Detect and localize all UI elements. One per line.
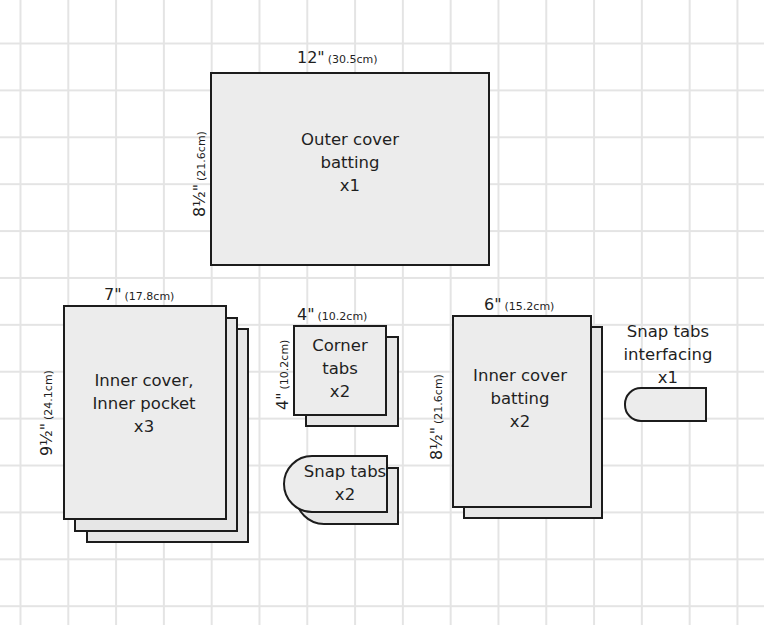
inner-cover-batting-height-dimension: 8½"(21.6cm) — [428, 374, 448, 460]
dimension-metric: (24.1cm) — [42, 370, 55, 420]
dimension-imperial: 6" — [484, 295, 502, 314]
inner-cover-height-dimension: 9½"(24.1cm) — [38, 370, 58, 456]
label-line: tabs — [312, 357, 368, 380]
label-line: Inner cover — [473, 364, 567, 387]
quantity-label: x2 — [304, 483, 386, 506]
label-line: batting — [301, 151, 399, 174]
inner-cover-inner-pocket-label: Inner cover, Inner pocket x3 — [92, 369, 195, 438]
outer-cover-width-dimension: 12"(30.5cm) — [297, 49, 378, 69]
dimension-metric: (21.6cm) — [195, 131, 208, 181]
quantity-label: x3 — [92, 415, 195, 438]
snap-tabs-interfacing-piece — [624, 387, 707, 422]
inner-cover-width-dimension: 7"(17.8cm) — [104, 286, 174, 306]
dimension-imperial: 7" — [104, 285, 122, 304]
outer-cover-height-dimension: 8½"(21.6cm) — [191, 131, 211, 217]
label-line: Snap tabs — [304, 460, 386, 483]
dimension-imperial: 12" — [297, 48, 325, 67]
label-line: Snap tabs — [624, 320, 713, 343]
inner-cover-batting-label: Inner cover batting x2 — [473, 364, 567, 433]
quantity-label: x1 — [624, 366, 713, 389]
label-line: batting — [473, 387, 567, 410]
dimension-imperial: 8½" — [427, 427, 446, 460]
corner-tabs-label: Corner tabs x2 — [312, 334, 368, 403]
dimension-metric: (17.8cm) — [125, 290, 175, 303]
dimension-imperial: 4" — [273, 392, 292, 410]
dimension-imperial: 9½" — [37, 423, 56, 456]
snap-tabs-interfacing-label: Snap tabs interfacing x1 — [624, 320, 713, 389]
dimension-metric: (15.2cm) — [505, 300, 555, 313]
label-line: interfacing — [624, 343, 713, 366]
dimension-metric: (21.6cm) — [432, 374, 445, 424]
inner-cover-batting-width-dimension: 6"(15.2cm) — [484, 296, 554, 316]
corner-tabs-height-dimension: 4"(10.2cm) — [274, 340, 294, 410]
dimension-metric: (10.2cm) — [318, 310, 368, 323]
outer-cover-batting-label: Outer cover batting x1 — [301, 128, 399, 197]
dimension-imperial: 8½" — [190, 184, 209, 217]
corner-tabs-width-dimension: 4"(10.2cm) — [297, 306, 367, 326]
label-line: Inner cover, — [92, 369, 195, 392]
quantity-label: x2 — [473, 410, 567, 433]
label-line: Corner — [312, 334, 368, 357]
snap-tabs-label: Snap tabs x2 — [304, 460, 386, 506]
quantity-label: x2 — [312, 380, 368, 403]
label-line: Outer cover — [301, 128, 399, 151]
dimension-imperial: 4" — [297, 305, 315, 324]
dimension-metric: (30.5cm) — [328, 53, 378, 66]
label-line: Inner pocket — [92, 392, 195, 415]
quantity-label: x1 — [301, 174, 399, 197]
dimension-metric: (10.2cm) — [278, 340, 291, 390]
